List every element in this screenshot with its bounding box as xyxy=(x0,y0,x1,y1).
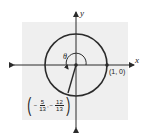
terminal-point-label: ( − 5 13 , − 12 13 ) xyxy=(26,95,66,115)
terminal-side xyxy=(68,65,76,93)
x-axis-label: x xyxy=(135,56,139,65)
point-1-0 xyxy=(105,63,109,67)
angle-theta-label: θ xyxy=(63,53,67,61)
x-sign: − xyxy=(34,102,38,108)
x-denominator: 13 xyxy=(39,106,46,112)
x-fraction: 5 13 xyxy=(39,99,46,112)
right-paren: ) xyxy=(66,95,70,115)
left-paren: ( xyxy=(27,95,31,115)
x-numerator: 5 xyxy=(40,99,45,106)
y-fraction: 12 13 xyxy=(55,99,64,112)
y-axis-label: y xyxy=(80,9,84,18)
y-sign: − xyxy=(50,102,54,108)
comma: , xyxy=(47,102,49,108)
unit-circle-diagram xyxy=(0,0,144,133)
point-1-0-label: (1, 0) xyxy=(109,68,125,75)
y-numerator: 12 xyxy=(55,99,64,106)
origin-point xyxy=(74,63,78,67)
y-denominator: 13 xyxy=(56,106,63,112)
